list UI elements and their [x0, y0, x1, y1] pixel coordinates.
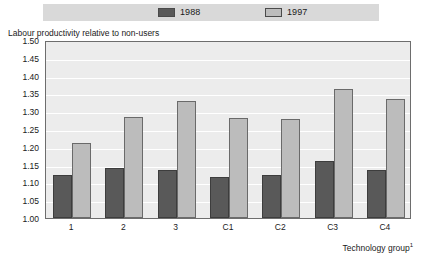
y-axis-tick-label: 1.25 — [22, 126, 39, 135]
bar-3-1997 — [177, 101, 196, 218]
x-axis-tick-label-3: 3 — [173, 223, 178, 232]
bar-2-1988 — [105, 168, 124, 218]
bar-3-1988 — [158, 170, 177, 218]
x-axis-tick-label-C4: C4 — [379, 223, 390, 232]
y-axis-tick-label: 1.30 — [22, 108, 39, 117]
bar-C1-1997 — [229, 118, 248, 218]
plot-area — [45, 41, 411, 219]
legend-item-1997: 1997 — [265, 6, 307, 19]
legend-item-1988: 1988 — [158, 6, 200, 19]
y-axis-tick-labels: 1.501.451.401.351.301.251.201.151.101.05… — [0, 41, 42, 219]
y-axis-tick-label: 1.00 — [22, 215, 39, 224]
y-axis-tick-label: 1.50 — [22, 37, 39, 46]
legend-swatch-1988-icon — [158, 8, 175, 17]
bar-C4-1988 — [367, 170, 386, 218]
bar-C3-1988 — [315, 161, 334, 218]
x-axis-caption-text: Technology group — [343, 243, 410, 253]
y-axis-tick-label: 1.35 — [22, 90, 39, 99]
bar-C2-1988 — [262, 175, 281, 218]
bar-2-1997 — [124, 117, 143, 218]
x-axis-tick-label-C3: C3 — [327, 223, 338, 232]
bar-1-1997 — [72, 143, 91, 218]
x-axis-tick-label-2: 2 — [121, 223, 126, 232]
y-axis-tick-label: 1.45 — [22, 55, 39, 64]
bars-layer — [46, 42, 410, 218]
y-axis-tick-label: 1.10 — [22, 179, 39, 188]
chart-legend: 1988 1997 — [43, 4, 379, 21]
y-axis-tick-label: 1.15 — [22, 161, 39, 170]
x-axis-tick-labels: 123C1C2C3C4 — [45, 223, 411, 237]
y-axis-tick-label: 1.20 — [22, 144, 39, 153]
bar-C2-1997 — [281, 119, 300, 218]
x-axis-tick-label-C2: C2 — [275, 223, 286, 232]
bar-C3-1997 — [334, 89, 353, 218]
bar-C4-1997 — [386, 99, 405, 218]
legend-label-1997: 1997 — [287, 8, 307, 17]
legend-swatch-1997-icon — [265, 8, 282, 17]
y-axis-tick-label: 1.05 — [22, 197, 39, 206]
x-axis-tick-label-C1: C1 — [223, 223, 234, 232]
x-axis-tick-label-1: 1 — [69, 223, 74, 232]
x-axis-caption-footnote: 1 — [410, 242, 413, 248]
y-axis-tick-label: 1.40 — [22, 72, 39, 81]
chart-figure: 1988 1997 Labour productivity relative t… — [0, 0, 435, 262]
legend-label-1988: 1988 — [180, 8, 200, 17]
x-axis-caption: Technology group1 — [343, 240, 413, 253]
bar-C1-1988 — [210, 177, 229, 218]
bar-1-1988 — [53, 175, 72, 218]
